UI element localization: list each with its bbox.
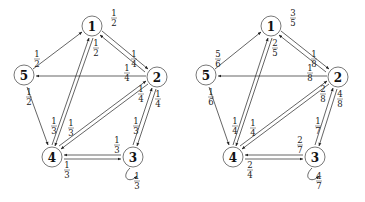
svg-text:2: 2 (297, 135, 302, 145)
weight-2-5: 1 8 (307, 63, 313, 83)
weight-5-4: 1 2 (26, 87, 32, 107)
svg-text:2: 2 (334, 71, 342, 85)
node-2: 2 (147, 67, 167, 87)
svg-text:1: 1 (51, 116, 56, 126)
svg-text:4: 4 (337, 89, 342, 99)
weight-2-4: 1 4 (138, 84, 144, 104)
svg-text:4: 4 (138, 94, 143, 104)
markov-chain-diagrams: 1 2 1 2 1 4 1 4 1 4 (0, 0, 365, 202)
weight-5-1: 1 2 (34, 49, 40, 69)
svg-text:5: 5 (272, 48, 277, 58)
svg-text:1: 1 (114, 135, 119, 145)
edge-1-to-4 (55, 38, 93, 146)
graph-right: 3 5 2 5 1 8 1 8 2 8 (196, 8, 348, 191)
edge-5-to-1 (33, 32, 82, 69)
node-5: 5 (14, 65, 34, 85)
svg-text:7: 7 (316, 181, 321, 191)
svg-text:1: 1 (232, 116, 237, 126)
svg-text:7: 7 (315, 126, 320, 136)
svg-text:5: 5 (215, 49, 220, 59)
node-5: 5 (196, 65, 216, 85)
svg-text:5: 5 (290, 18, 295, 28)
weight-2-4: 2 8 (320, 84, 326, 104)
svg-text:3: 3 (129, 151, 137, 165)
svg-text:3: 3 (51, 126, 56, 136)
svg-text:1: 1 (133, 116, 138, 126)
svg-text:4: 4 (131, 59, 136, 69)
svg-text:3: 3 (133, 126, 138, 136)
svg-text:4: 4 (155, 99, 160, 109)
svg-text:4: 4 (124, 73, 129, 83)
weight-2-5: 1 4 (124, 63, 130, 83)
svg-text:5: 5 (20, 69, 28, 83)
svg-text:1: 1 (267, 20, 275, 34)
svg-text:2: 2 (34, 59, 39, 69)
weight-3-3: 4 7 (316, 171, 322, 191)
svg-text:1: 1 (138, 84, 143, 94)
weight-5-1: 5 6 (215, 49, 221, 69)
graph-left: 1 2 1 2 1 4 1 4 1 4 (14, 8, 167, 191)
svg-text:2: 2 (93, 48, 98, 58)
weight-4-2: 1 4 (250, 118, 256, 138)
svg-text:1: 1 (93, 38, 98, 48)
weight-5-4: 1 6 (208, 87, 214, 107)
svg-text:2: 2 (247, 160, 252, 170)
weight-2-1: 1 4 (131, 49, 137, 69)
weight-4-1: 1 4 (232, 116, 238, 136)
svg-text:1: 1 (88, 20, 96, 34)
weight-1-4: 2 5 (272, 38, 278, 58)
svg-text:1: 1 (68, 118, 73, 128)
svg-text:1: 1 (131, 49, 136, 59)
node-3: 3 (123, 147, 143, 167)
weight-3-3: 1 3 (134, 171, 140, 191)
svg-text:3: 3 (114, 145, 119, 155)
svg-text:2: 2 (26, 97, 31, 107)
svg-text:1: 1 (124, 63, 129, 73)
edge-5-to-1 (215, 32, 261, 69)
svg-text:1: 1 (26, 87, 31, 97)
node-1: 1 (261, 16, 281, 36)
svg-text:7: 7 (297, 145, 302, 155)
svg-text:4: 4 (48, 151, 56, 165)
weight-3-2: 1 7 (315, 116, 321, 136)
svg-text:2: 2 (320, 84, 325, 94)
node-4: 4 (223, 147, 243, 167)
svg-text:3: 3 (68, 128, 73, 138)
weight-3-2: 1 3 (133, 116, 139, 136)
svg-text:4: 4 (247, 170, 252, 180)
svg-text:3: 3 (64, 170, 69, 180)
weight-3-4: 2 7 (297, 135, 303, 155)
svg-text:4: 4 (232, 126, 237, 136)
svg-text:1: 1 (315, 116, 320, 126)
weight-2-3: 1 4 (155, 89, 161, 109)
weight-1-4: 1 2 (93, 38, 99, 58)
svg-text:1: 1 (208, 87, 213, 97)
weight-4-2: 1 3 (68, 118, 74, 138)
node-3: 3 (305, 147, 325, 167)
svg-text:1: 1 (307, 63, 312, 73)
node-2: 2 (328, 67, 348, 87)
node-1: 1 (82, 16, 102, 36)
svg-text:6: 6 (215, 59, 220, 69)
svg-text:1: 1 (155, 89, 160, 99)
svg-text:4: 4 (229, 151, 237, 165)
weight-4-3: 1 3 (64, 160, 70, 180)
weight-1-2: 1 2 (111, 8, 117, 28)
svg-text:4: 4 (316, 171, 321, 181)
svg-text:5: 5 (202, 69, 210, 83)
edge-2-to-1 (279, 35, 326, 72)
svg-text:3: 3 (290, 8, 295, 18)
svg-text:1: 1 (64, 160, 69, 170)
svg-text:1: 1 (134, 171, 139, 181)
svg-text:8: 8 (320, 94, 325, 104)
svg-text:1: 1 (250, 118, 255, 128)
svg-text:8: 8 (337, 99, 342, 109)
svg-text:1: 1 (34, 49, 39, 59)
svg-text:4: 4 (250, 128, 255, 138)
svg-text:2: 2 (153, 71, 161, 85)
weight-1-2: 3 5 (290, 8, 296, 28)
svg-text:3: 3 (311, 151, 319, 165)
svg-text:2: 2 (111, 18, 116, 28)
svg-text:2: 2 (272, 38, 277, 48)
svg-text:3: 3 (134, 181, 139, 191)
